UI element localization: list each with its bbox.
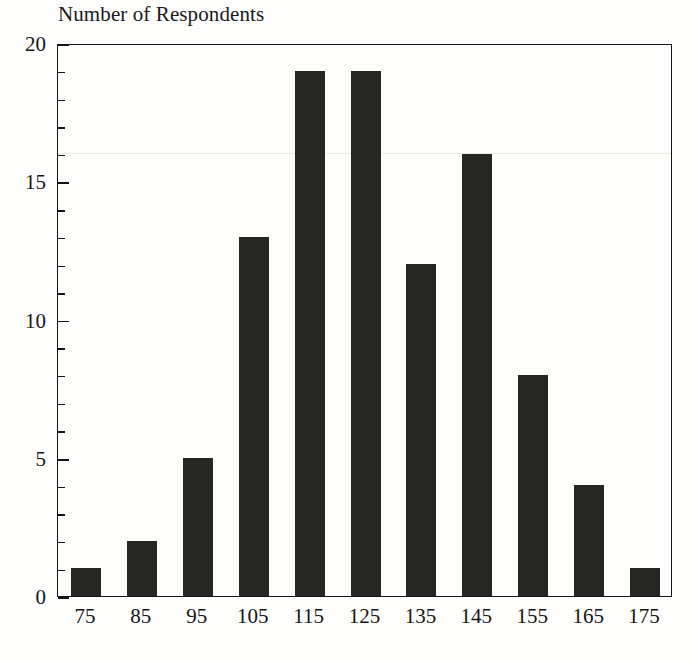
y-axis-tick-label: 15 [25,170,46,195]
bar [239,237,269,596]
x-axis-tick-label: 155 [516,604,548,629]
bar [462,154,492,596]
x-axis-tick-label: 75 [74,604,95,629]
x-axis-tick-label: 135 [405,604,437,629]
x-axis-tick-label: 95 [186,604,207,629]
x-axis-tick-label: 115 [293,604,324,629]
bar [295,71,325,596]
bar [71,568,101,596]
y-tick-major [58,597,69,599]
x-axis-tick-label: 145 [461,604,493,629]
x-axis-tick-label: 175 [628,604,660,629]
bar [127,541,157,596]
x-axis-tick-label: 125 [349,604,381,629]
x-axis-labels: 758595105115125135145155165175 [57,604,672,644]
histogram-chart: Number of Respondents 05101520 758595105… [0,0,693,662]
y-axis-labels: 05101520 [0,44,46,597]
bars-layer [58,45,671,596]
bar [183,458,213,596]
bar [630,568,660,596]
y-axis-tick-label: 20 [25,32,46,57]
y-axis-tick-label: 10 [25,308,46,333]
bar [406,264,436,596]
chart-title: Number of Respondents [58,2,264,27]
y-axis-tick-label: 5 [36,446,47,471]
x-axis-tick-label: 165 [572,604,604,629]
x-axis-tick-label: 85 [130,604,151,629]
y-axis-tick-label: 0 [36,585,47,610]
x-axis-tick-label: 105 [237,604,269,629]
bar [351,71,381,596]
bar [574,485,604,596]
plot-area [57,44,672,597]
bar [518,375,548,596]
